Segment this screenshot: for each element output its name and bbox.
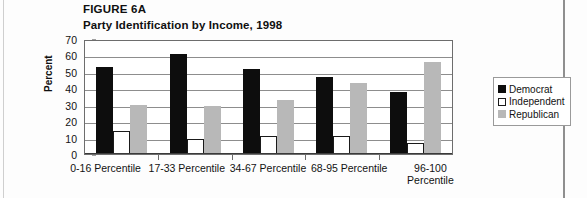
x-axis-line <box>85 153 452 154</box>
legend-swatch-independent <box>498 98 506 106</box>
x-axis-label-3: 68-95 Percentile <box>309 162 390 186</box>
y-tick-label-50: 50 <box>65 67 77 79</box>
y-tick-label-30: 30 <box>65 100 77 112</box>
bar-group <box>85 41 158 154</box>
bar-democrat-3 <box>316 77 333 154</box>
plot-area <box>84 40 453 155</box>
legend-swatch-democrat <box>498 85 506 93</box>
x-tick-mark-3 <box>305 155 306 160</box>
x-tick-mark-1 <box>158 155 159 160</box>
x-axis-labels: 0-16 Percentile17-33 Percentile34-67 Per… <box>65 162 471 186</box>
y-axis-ticks: 010203040506070 <box>57 40 80 155</box>
y-tick-label-70: 70 <box>65 34 77 46</box>
page-canvas: FIGURE 6A Party Identification by Income… <box>0 0 587 198</box>
bar-independent-2 <box>260 136 277 154</box>
bar-chart: Percent 010203040506070 0-16 Percentile1… <box>45 40 485 170</box>
legend-label-independent: Independent <box>509 96 565 107</box>
y-tick-label-20: 20 <box>65 116 77 128</box>
y-axis-label: Percent <box>43 55 54 92</box>
bar-democrat-0 <box>96 67 113 154</box>
x-axis-label-0: 0-16 Percentile <box>65 162 146 186</box>
y-tick-label-10: 10 <box>65 133 77 145</box>
bar-republican-3 <box>350 83 367 154</box>
bar-republican-2 <box>277 100 294 154</box>
page-edge-left <box>3 0 4 198</box>
legend-item-democrat: Democrat <box>498 84 565 95</box>
bar-democrat-4 <box>390 92 407 154</box>
x-axis-label-4: 96-100 Percentile <box>390 162 471 186</box>
bar-group <box>232 41 305 154</box>
figure-label: FIGURE 6A <box>83 3 282 16</box>
bar-group <box>305 41 378 154</box>
x-axis-tickmarks <box>84 155 453 161</box>
x-axis-label-2: 34-67 Percentile <box>227 162 308 186</box>
x-tick-mark-2 <box>232 155 233 160</box>
x-axis-label-1: 17-33 Percentile <box>146 162 227 186</box>
y-tick-label-40: 40 <box>65 83 77 95</box>
figure-heading: FIGURE 6A Party Identification by Income… <box>83 3 282 32</box>
legend-label-democrat: Democrat <box>509 84 552 95</box>
y-tick-label-60: 60 <box>65 50 77 62</box>
bar-independent-1 <box>187 139 204 154</box>
figure-title: Party Identification by Income, 1998 <box>83 18 282 32</box>
bar-independent-0 <box>113 131 130 154</box>
bar-group <box>379 41 452 154</box>
bar-democrat-2 <box>243 69 260 154</box>
bar-groups <box>85 41 452 154</box>
legend-item-independent: Independent <box>498 96 565 107</box>
bar-republican-0 <box>130 105 147 154</box>
y-tick-label-0: 0 <box>71 149 77 161</box>
legend-item-republican: Republican <box>498 109 565 120</box>
bar-democrat-1 <box>170 54 187 154</box>
bar-republican-4 <box>424 62 441 154</box>
bar-republican-1 <box>204 106 221 154</box>
bar-group <box>158 41 231 154</box>
legend-swatch-republican <box>498 110 506 118</box>
x-tick-mark-4 <box>379 155 380 160</box>
legend-label-republican: Republican <box>509 109 559 120</box>
bar-independent-3 <box>333 136 350 154</box>
chart-legend: DemocratIndependentRepublican <box>493 77 571 126</box>
